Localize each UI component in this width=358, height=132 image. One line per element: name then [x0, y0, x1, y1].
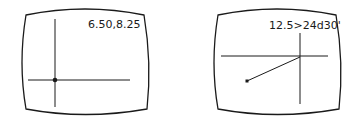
- right-polar-readout: 12.5>24d30': [269, 19, 341, 32]
- left-coordinate-readout: 6.50,8.25: [88, 18, 140, 31]
- right-screen: 12.5>24d30': [214, 9, 341, 115]
- polar-distance-line: [247, 57, 300, 81]
- left-screen: 6.50,8.25: [22, 9, 149, 115]
- diagram-canvas: 6.50,8.25 12.5>24d30': [0, 0, 358, 132]
- right-point-marker: [246, 80, 249, 83]
- left-point-marker: [53, 78, 58, 83]
